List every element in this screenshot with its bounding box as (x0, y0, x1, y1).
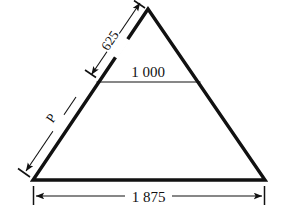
cross-section-group: 1 000 (97, 64, 201, 82)
dimension-tick-P-lower (18, 169, 30, 178)
triangle-path (33, 9, 265, 180)
base-dimension-group: 1 875 (34, 186, 265, 205)
figure-canvas: 1 000 625 P 1 8 (0, 0, 283, 212)
base-label: 1 875 (132, 189, 166, 205)
dimension-tick-625-upper (134, 1, 145, 9)
cross-section-label: 1 000 (131, 64, 165, 80)
triangle-diagram: 1 000 625 P 1 8 (0, 0, 283, 212)
left-side-dimension-group: P (18, 97, 76, 177)
triangle-outline (33, 9, 265, 180)
